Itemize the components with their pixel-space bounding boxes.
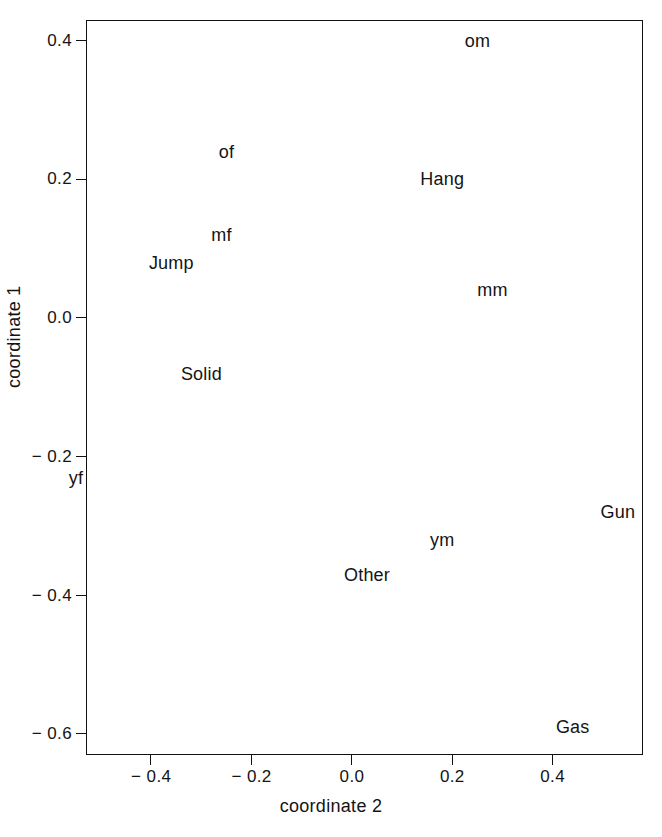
data-point-label: Other xyxy=(344,566,390,584)
y-tick-mark xyxy=(76,456,86,457)
x-tick-label: 0.2 xyxy=(440,768,465,785)
y-tick-label: − 0.2 xyxy=(32,448,72,465)
data-point-label: om xyxy=(465,32,490,50)
data-point-label: Gas xyxy=(556,718,590,736)
y-tick-mark xyxy=(76,40,86,41)
plot-area xyxy=(86,20,643,755)
x-tick-label: 0.0 xyxy=(340,768,365,785)
x-tick-mark xyxy=(251,755,252,765)
scatter-plot-figure: 0.40.20.0− 0.2− 0.4− 0.6 − 0.4− 0.20.00.… xyxy=(0,0,662,837)
y-tick-mark xyxy=(76,317,86,318)
data-point-label: ym xyxy=(430,531,454,549)
y-tick-mark xyxy=(76,733,86,734)
y-tick-label: 0.4 xyxy=(47,32,72,49)
x-tick-mark xyxy=(552,755,553,765)
x-tick-label: − 0.2 xyxy=(231,768,271,785)
data-point-label: mf xyxy=(211,226,231,244)
y-tick-label: − 0.6 xyxy=(32,725,72,742)
data-point-label: Gun xyxy=(601,503,636,521)
data-point-label: Hang xyxy=(420,170,464,188)
y-axis-title: coordinate 1 xyxy=(5,285,23,388)
x-axis-title: coordinate 2 xyxy=(0,797,662,815)
data-point-label: Jump xyxy=(149,254,194,272)
x-tick-mark xyxy=(351,755,352,765)
y-tick-label: 0.0 xyxy=(47,309,72,326)
y-tick-mark xyxy=(76,179,86,180)
x-tick-label: 0.4 xyxy=(540,768,565,785)
data-point-label: of xyxy=(219,143,234,161)
x-tick-mark xyxy=(150,755,151,765)
data-point-label: mm xyxy=(477,281,507,299)
x-tick-mark xyxy=(452,755,453,765)
y-tick-mark xyxy=(76,595,86,596)
y-tick-label: − 0.4 xyxy=(32,587,72,604)
data-point-label: Solid xyxy=(181,365,222,383)
y-tick-label: 0.2 xyxy=(47,170,72,187)
x-tick-label: − 0.4 xyxy=(131,768,171,785)
data-point-label: yf xyxy=(69,469,83,487)
